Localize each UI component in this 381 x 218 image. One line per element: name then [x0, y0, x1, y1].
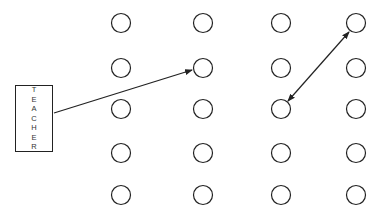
student-circle — [347, 59, 366, 78]
teacher-label-letter: T — [32, 85, 37, 95]
teacher-label-letter: H — [31, 123, 36, 133]
student-circle — [347, 186, 366, 205]
student-circle — [194, 144, 213, 163]
student-circle — [347, 144, 366, 163]
student-circle — [112, 186, 131, 205]
student-circle — [272, 59, 291, 78]
teacher-label-letter: E — [31, 133, 36, 143]
student-circle — [347, 14, 366, 33]
student-circle — [272, 100, 291, 119]
student-circle — [112, 100, 131, 119]
teacher-arrow — [54, 70, 192, 113]
student-circle — [194, 100, 213, 119]
student-circle — [112, 144, 131, 163]
student-circle — [347, 100, 366, 119]
student-circle — [272, 186, 291, 205]
student-circle — [272, 14, 291, 33]
peer-double-arrow — [288, 32, 349, 101]
student-circle — [112, 14, 131, 33]
teacher-box: TEACHER — [15, 85, 53, 152]
teacher-label-letter: R — [31, 142, 36, 152]
student-circle — [112, 59, 131, 78]
student-circle — [194, 59, 213, 78]
teacher-label-letter: A — [31, 104, 36, 114]
student-circle — [194, 14, 213, 33]
student-circle — [272, 144, 291, 163]
teacher-label-letter: E — [31, 95, 36, 105]
student-circle — [194, 186, 213, 205]
teacher-label-letter: C — [31, 114, 36, 124]
diagram-canvas — [0, 0, 381, 218]
